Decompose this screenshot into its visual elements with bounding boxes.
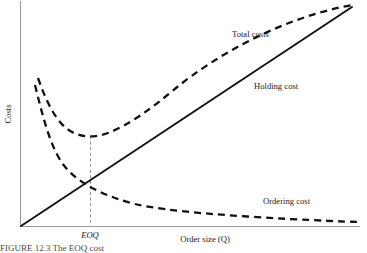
figure-caption-partial: FIGURE 12.3 The EOQ cost — [0, 244, 367, 253]
holding-cost-label: Holding cost — [254, 81, 299, 91]
ordering-cost-label: Ordering cost — [263, 196, 311, 206]
eoq-chart-canvas: Total costs Holding cost Ordering cost E… — [0, 0, 367, 253]
eoq-cost-figure: Total costs Holding cost Ordering cost E… — [0, 0, 367, 253]
total-costs-label: Total costs — [232, 29, 270, 39]
holding-cost-line — [21, 7, 352, 226]
total-costs-curve — [38, 5, 352, 136]
eoq-tick-label: EOQ — [80, 230, 99, 240]
y-axis-title: Costs — [3, 104, 13, 124]
x-axis-title: Order size (Q) — [180, 234, 230, 244]
